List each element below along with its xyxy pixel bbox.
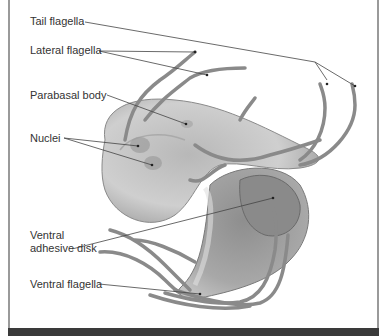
label-tail-flagella: Tail flagella bbox=[30, 15, 84, 28]
label-ventral-flagella: Ventral flagella bbox=[30, 278, 102, 291]
label-parabasal-body: Parabasal body bbox=[30, 89, 106, 102]
label-nuclei: Nuclei bbox=[30, 132, 61, 145]
label-ventral-adhesive-disk-line1: Ventral bbox=[30, 229, 64, 242]
label-ventral-adhesive-disk-line2: adhesive disk bbox=[30, 242, 97, 255]
lower-cell-body bbox=[179, 168, 309, 298]
label-lateral-flagella: Lateral flagella bbox=[30, 44, 102, 57]
